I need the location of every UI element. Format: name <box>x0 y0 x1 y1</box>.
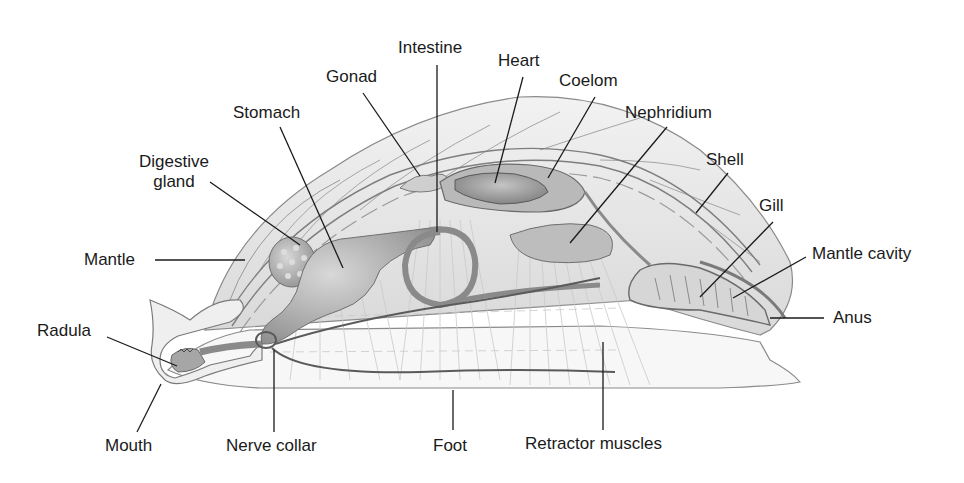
label-heart: Heart <box>498 51 540 71</box>
label-digestive-gland-line1: Digestive <box>130 152 218 172</box>
label-stomach: Stomach <box>233 103 300 123</box>
label-nerve-collar: Nerve collar <box>226 436 317 456</box>
label-radula: Radula <box>37 321 91 341</box>
label-mantle: Mantle <box>84 250 135 270</box>
label-retractor-muscles: Retractor muscles <box>525 434 662 454</box>
label-digestive-gland: Digestive gland <box>130 152 218 192</box>
label-gill: Gill <box>759 196 784 216</box>
label-gonad: Gonad <box>326 67 377 87</box>
label-foot: Foot <box>433 436 467 456</box>
label-shell: Shell <box>706 150 744 170</box>
label-anus: Anus <box>833 308 872 328</box>
label-mouth: Mouth <box>105 436 152 456</box>
leader-mouth <box>137 384 161 432</box>
label-digestive-gland-line2: gland <box>130 172 218 192</box>
label-intestine: Intestine <box>398 38 462 58</box>
mollusk-anatomy-diagram: Intestine Gonad Heart Coelom Stomach Nep… <box>0 0 964 483</box>
label-coelom: Coelom <box>559 71 618 91</box>
mollusk-illustration <box>0 0 964 483</box>
label-nephridium: Nephridium <box>625 103 712 123</box>
label-mantle-cavity: Mantle cavity <box>812 244 911 264</box>
